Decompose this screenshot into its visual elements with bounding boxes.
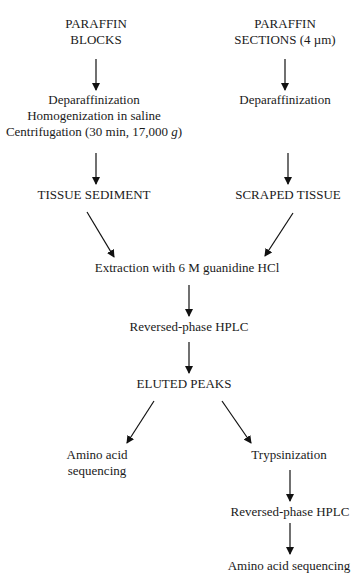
homogenization: Homogenization in saline bbox=[6, 108, 182, 124]
node-amino-left: Amino acid sequencing bbox=[66, 447, 127, 479]
node-tissue-sediment: TISSUE SEDIMENT bbox=[37, 187, 150, 203]
node-trypsinization: Trypsinization bbox=[251, 447, 326, 463]
centrifugation-close: ) bbox=[178, 124, 182, 139]
node-hplc-1: Reversed-phase HPLC bbox=[130, 319, 249, 335]
arrow-sediment-to-extraction bbox=[87, 212, 114, 257]
deparaffinization-left: Deparaffinization bbox=[6, 92, 182, 108]
arrow-peaks-to-amino-left bbox=[127, 401, 154, 443]
arrow-peaks-to-trypsinization bbox=[222, 401, 251, 443]
arrow-scraped-to-extraction bbox=[265, 213, 293, 256]
node-paraffin-sections: PARAFFIN SECTIONS (4 µm) bbox=[234, 16, 335, 48]
node-extraction: Extraction with 6 M guanidine HCl bbox=[95, 260, 280, 276]
node-scraped-tissue: SCRAPED TISSUE bbox=[235, 187, 341, 203]
paraffin-blocks-line2: BLOCKS bbox=[65, 32, 127, 48]
node-eluted-peaks: ELUTED PEAKS bbox=[137, 376, 232, 392]
paraffin-sections-line1: PARAFFIN bbox=[234, 16, 335, 32]
node-hplc-2: Reversed-phase HPLC bbox=[231, 504, 350, 520]
amino-left-line1: Amino acid bbox=[66, 447, 127, 463]
node-amino-right: Amino acid sequencing bbox=[228, 558, 351, 574]
centrifugation: Centrifugation (30 min, 17,000 g) bbox=[6, 124, 182, 140]
node-right-deparaffinization: Deparaffinization bbox=[239, 92, 330, 108]
centrifugation-text: Centrifugation (30 min, 17,000 bbox=[6, 124, 171, 139]
paraffin-sections-line2: SECTIONS (4 µm) bbox=[234, 32, 335, 48]
paraffin-blocks-line1: PARAFFIN bbox=[65, 16, 127, 32]
arrows-layer bbox=[0, 0, 358, 585]
amino-left-line2: sequencing bbox=[66, 463, 127, 479]
node-left-processing: Deparaffinization Homogenization in sali… bbox=[6, 92, 182, 140]
node-paraffin-blocks: PARAFFIN BLOCKS bbox=[65, 16, 127, 48]
